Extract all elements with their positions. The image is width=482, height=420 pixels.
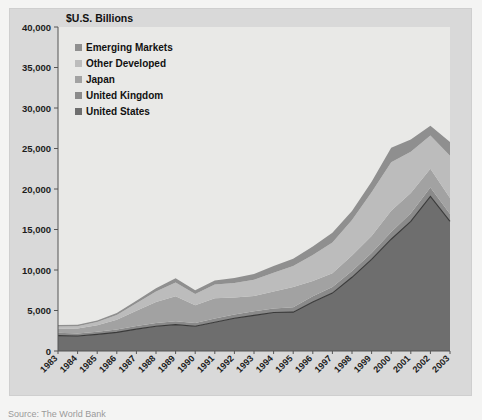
x-axis-tick-label: 1997	[313, 353, 334, 374]
x-axis-tick-label: 2003	[430, 353, 451, 374]
chart-figure: 05,00010,00015,00020,00025,00030,00035,0…	[0, 0, 482, 420]
x-axis-tick-label: 1993	[234, 353, 255, 374]
x-axis-tick-label: 1995	[273, 353, 294, 374]
x-axis-tick-label: 1985	[77, 353, 98, 374]
y-axis-tick-label: 30,000	[22, 103, 51, 114]
y-axis-tick-label: 10,000	[22, 265, 51, 276]
x-axis-tick-label: 1986	[97, 353, 118, 374]
x-axis-tick-label: 1987	[117, 353, 138, 374]
x-axis-tick-label: 1996	[293, 353, 314, 374]
x-axis-tick-label: 1991	[195, 353, 216, 374]
x-axis-tick-label: 2000	[371, 353, 392, 374]
y-axis-tick-label: 25,000	[22, 143, 51, 154]
legend-swatch-emerging-markets	[75, 44, 82, 51]
x-axis-tick-label: 1983	[38, 353, 59, 374]
y-axis-tick-group: 05,00010,00015,00020,00025,00030,00035,0…	[22, 22, 58, 357]
legend-label-emerging-markets: Emerging Markets	[86, 42, 173, 53]
x-axis-tick-label: 2001	[391, 353, 412, 374]
legend-label-united-kingdom: United Kingdom	[86, 90, 163, 101]
legend-swatch-other-developed	[75, 60, 82, 67]
source-caption: Source: The World Bank	[8, 409, 408, 420]
y-axis-tick-label: 40,000	[22, 22, 51, 33]
legend-swatch-united-kingdom	[75, 92, 82, 99]
x-axis-tick-label: 1998	[332, 353, 353, 374]
x-axis-tick-label: 1988	[136, 353, 157, 374]
x-axis-tick-label: 1992	[215, 353, 236, 374]
x-axis-tick-label: 1984	[58, 353, 79, 374]
x-axis-tick-label: 2002	[411, 353, 432, 374]
legend-label-united-states: United States	[86, 106, 150, 117]
legend-swatch-japan	[75, 76, 82, 83]
x-axis-tick-label: 1990	[175, 353, 196, 374]
x-axis-tick-label: 1994	[254, 353, 275, 374]
legend-label-japan: Japan	[86, 74, 115, 85]
y-axis-tick-label: 20,000	[22, 184, 51, 195]
x-axis-tick-label: 1999	[352, 353, 373, 374]
chart-title: $U.S. Billions	[66, 12, 133, 24]
y-axis-tick-label: 5,000	[27, 305, 51, 316]
x-axis-tick-group: 1983198419851986198719881989199019911992…	[38, 351, 451, 375]
stacked-area-chart: 05,00010,00015,00020,00025,00030,00035,0…	[0, 0, 482, 420]
legend-label-other-developed: Other Developed	[86, 58, 166, 69]
legend-swatch-united-states	[75, 108, 82, 115]
y-axis-tick-label: 15,000	[22, 224, 51, 235]
y-axis-tick-label: 35,000	[22, 62, 51, 73]
x-axis-tick-label: 1989	[156, 353, 177, 374]
